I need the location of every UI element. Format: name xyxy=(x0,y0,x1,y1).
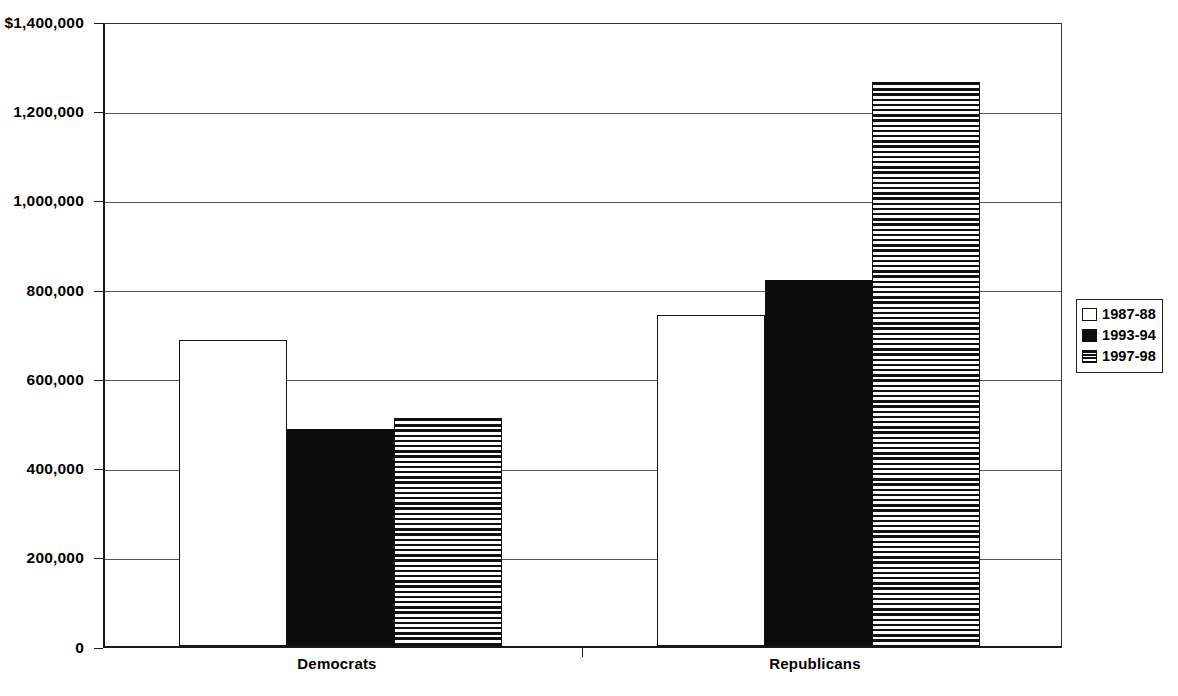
y-axis-tick-600000 xyxy=(94,380,103,381)
legend-swatch-hstripe-icon xyxy=(1082,350,1097,363)
y-axis-label-1000000: 1,000,000 xyxy=(13,192,84,210)
bar-republicans-1993-94 xyxy=(765,280,873,646)
bar-democrats-1993-94 xyxy=(287,429,395,646)
y-axis-labels: $1,400,000 1,200,000 1,000,000 800,000 6… xyxy=(0,0,92,696)
y-axis-tick-1400000 xyxy=(94,23,103,24)
legend-item-1987-88: 1987-88 xyxy=(1082,304,1156,325)
y-axis-tick-200000 xyxy=(94,558,103,559)
y-axis-label-800000: 800,000 xyxy=(27,282,84,300)
legend-label-1993-94: 1993-94 xyxy=(1102,328,1156,343)
y-axis-tick-1200000 xyxy=(94,112,103,113)
y-axis-label-1200000: 1,200,000 xyxy=(13,103,84,121)
y-axis-label-200000: 200,000 xyxy=(27,549,84,567)
plot-area xyxy=(103,23,1062,648)
bar-chart: $1,400,000 1,200,000 1,000,000 800,000 6… xyxy=(0,0,1178,696)
y-axis-label-600000: 600,000 xyxy=(27,371,84,389)
category-axis-tick xyxy=(582,648,583,657)
y-axis-tick-800000 xyxy=(94,291,103,292)
y-axis-label-0: 0 xyxy=(75,639,84,657)
y-axis-tick-400000 xyxy=(94,469,103,470)
bar-republicans-1997-98 xyxy=(872,82,980,646)
legend: 1987-88 1993-94 1997-98 xyxy=(1076,299,1163,373)
legend-swatch-solid-icon xyxy=(1082,329,1097,342)
bar-democrats-1987-88 xyxy=(179,340,287,646)
legend-label-1987-88: 1987-88 xyxy=(1102,307,1156,322)
y-axis-label-400000: 400,000 xyxy=(27,460,84,478)
legend-label-1997-98: 1997-98 xyxy=(1102,349,1156,364)
legend-swatch-open-icon xyxy=(1082,308,1097,321)
legend-item-1997-98: 1997-98 xyxy=(1082,346,1156,367)
bar-republicans-1987-88 xyxy=(657,315,765,646)
y-axis-tick-1000000 xyxy=(94,201,103,202)
legend-item-1993-94: 1993-94 xyxy=(1082,325,1156,346)
category-label-democrats: Democrats xyxy=(237,655,437,672)
y-axis-label-1400000: $1,400,000 xyxy=(4,14,84,32)
category-label-republicans: Republicans xyxy=(715,655,915,672)
bar-democrats-1997-98 xyxy=(394,418,502,646)
y-axis-tick-0 xyxy=(94,648,103,649)
